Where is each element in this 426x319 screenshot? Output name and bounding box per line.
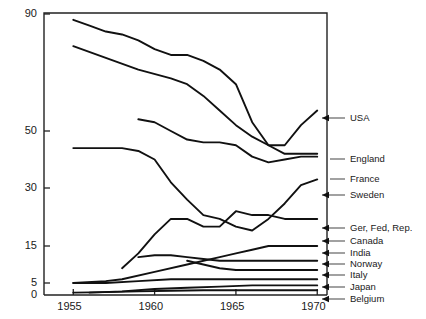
y-axis-tick-label: 15 [25,239,37,251]
legend-arrow-icon [322,192,329,198]
legend-arrow-icon [322,225,329,231]
legend-arrow-icon [322,272,329,278]
legend-label-canada: Canada [350,235,383,246]
y-axis-tick-label: 50 [25,124,37,136]
x-axis-tick-label: 1965 [220,300,244,312]
y-axis-tick-label: 5 [31,276,37,288]
x-axis-tick-label: 1960 [139,300,163,312]
legend-label-italy: Italy [350,269,367,280]
legend-label-japan: Japan [350,281,376,292]
series-line-belgium [73,290,317,292]
legend-label-norway: Norway [350,258,382,269]
legend-label-belgium: Belgium [350,293,384,304]
legend-label-ger-fed-rep: Ger, Fed, Rep. [350,222,412,233]
series-line-norway [187,261,317,270]
legend-label-england: England [350,153,385,164]
y-axis-tick-label: 0 [31,288,37,300]
legend-arrow-icon [322,261,329,267]
legend-arrow-icon [322,250,329,256]
legend-label-usa: USA [350,112,370,123]
legend-arrow-icon [322,284,329,290]
series-line-usa [73,20,317,145]
legend-arrow-icon [322,238,329,244]
legend-label-sweden: Sweden [350,189,384,200]
series-line-england [73,46,317,154]
x-axis-tick-label: 1955 [57,300,81,312]
y-axis-tick-label: 90 [25,7,37,19]
series-line-france [138,119,317,162]
line-chart: 05153050901955196019651970USAEnglandFran… [0,0,426,319]
legend-label-india: India [350,247,371,258]
legend-arrow-icon [322,115,329,121]
x-axis-tick-label: 1970 [301,300,325,312]
y-axis-tick-label: 30 [25,181,37,193]
series-line-canada [73,246,317,283]
legend-label-france: France [350,173,380,184]
